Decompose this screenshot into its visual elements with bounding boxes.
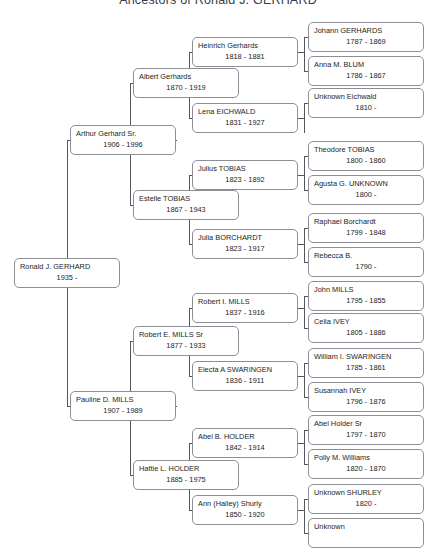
person-name: Arthur Gerhard Sr.	[76, 130, 170, 138]
tree-connector	[298, 510, 305, 511]
person-name: Theodore TOBIAS	[314, 146, 418, 154]
person-box-p5[interactable]: Estelle TOBIAS1867 - 1943	[133, 190, 239, 220]
tree-connector	[298, 308, 305, 309]
person-dates: 1820 -	[314, 500, 418, 508]
person-dates: 1818 - 1881	[198, 53, 292, 61]
person-dates: 1850 - 1920	[198, 511, 292, 519]
person-dates: 1867 - 1943	[139, 206, 233, 214]
person-name: Rebecca B.	[314, 252, 418, 260]
person-box-p23[interactable]: John MILLS1795 - 1855	[308, 281, 424, 311]
person-box-p11[interactable]: Julia BORCHARDT1823 - 1917	[192, 229, 298, 259]
person-name: William I. SWARINGEN	[314, 353, 418, 361]
person-dates: 1800 -	[314, 191, 418, 199]
tree-connector	[304, 430, 305, 464]
person-box-p27[interactable]: Abel Holder Sr1797 - 1870	[308, 415, 424, 445]
person-box-p10[interactable]: Julius TOBIAS1823 - 1892	[192, 160, 298, 190]
tree-connector	[304, 228, 305, 262]
person-box-p3[interactable]: Pauline D. MILLS1907 - 1989	[70, 391, 176, 421]
person-box-p21[interactable]: Raphael Borchardt1799 - 1848	[308, 213, 424, 243]
person-name: Unknown SHURLEY	[314, 489, 418, 497]
person-name: Ann (Hailey) Shurly	[198, 500, 292, 508]
person-box-p8[interactable]: Heinrich Gerhards1818 - 1881	[192, 37, 298, 67]
person-box-p26[interactable]: Susannah IVEY1796 - 1876	[308, 382, 424, 412]
tree-connector	[304, 363, 305, 397]
person-dates: 1805 - 1886	[314, 329, 418, 337]
person-name: Julius TOBIAS	[198, 165, 292, 173]
person-dates: 1787 - 1869	[314, 38, 418, 46]
person-name: Estelle TOBIAS	[139, 195, 233, 203]
tree-connector	[67, 273, 68, 406]
person-name: Abel Holder Sr	[314, 420, 418, 428]
person-dates: 1823 - 1892	[198, 176, 292, 184]
person-dates: 1870 - 1919	[139, 84, 233, 92]
person-dates: 1837 - 1916	[198, 309, 292, 317]
tree-connector	[304, 296, 305, 328]
person-name: Unknown	[314, 523, 418, 531]
person-dates: 1906 - 1996	[76, 141, 170, 149]
person-dates: 1820 - 1870	[314, 465, 418, 473]
person-box-p4[interactable]: Albert Gerhards1870 - 1919	[133, 68, 239, 98]
person-name: Lena EICHWALD	[198, 108, 292, 116]
person-name: Polly M. Williams	[314, 454, 418, 462]
ancestor-chart: Ancestors of Ronald J. GERHARD Ronald J.…	[0, 0, 436, 559]
person-name: John MILLS	[314, 286, 418, 294]
person-name: Hattie L. HOLDER	[139, 465, 233, 473]
person-name: Agusta G. UNKNOWN	[314, 180, 418, 188]
person-box-p17[interactable]: Anna M. BLUM1786 - 1867	[308, 56, 424, 86]
tree-connector	[298, 244, 305, 245]
person-box-p13[interactable]: Electa A SWARINGEN1836 - 1911	[192, 361, 298, 391]
person-dates: 1800 - 1860	[314, 157, 418, 165]
person-box-p30[interactable]: Unknown	[308, 518, 424, 548]
tree-connector	[298, 376, 305, 377]
person-dates: 1842 - 1914	[198, 444, 292, 452]
person-name: Abel B. HOLDER	[198, 433, 292, 441]
person-box-p22[interactable]: Rebecca B.1790 -	[308, 247, 424, 277]
person-box-p14[interactable]: Abel B. HOLDER1842 - 1914	[192, 428, 298, 458]
person-dates: 1790 -	[314, 263, 418, 271]
person-dates: 1823 - 1917	[198, 245, 292, 253]
person-name: Robert I. MILLS	[198, 298, 292, 306]
person-name: Celia IVEY	[314, 318, 418, 326]
person-box-p2[interactable]: Arthur Gerhard Sr.1906 - 1996	[70, 125, 176, 155]
person-name: Susannah IVEY	[314, 387, 418, 395]
person-dates: 1799 - 1848	[314, 229, 418, 237]
tree-connector	[304, 156, 305, 190]
tree-connector	[304, 499, 305, 533]
person-box-p9[interactable]: Lena EICHWALD1831 - 1927	[192, 103, 298, 133]
person-box-p28[interactable]: Polly M. Williams1820 - 1870	[308, 449, 424, 479]
person-box-p1[interactable]: Ronald J. GERHARD1935 -	[14, 258, 120, 288]
person-dates: 1935 -	[20, 274, 114, 282]
person-box-p7[interactable]: Hattie L. HOLDER1885 - 1975	[133, 460, 239, 490]
tree-connector	[304, 37, 305, 71]
person-dates: 1885 - 1975	[139, 476, 233, 484]
person-box-p6[interactable]: Robert E. MILLS Sr1877 - 1933	[133, 326, 239, 356]
tree-connector	[304, 103, 305, 133]
person-name: Johann GERHARDS	[314, 27, 418, 35]
person-box-p15[interactable]: Ann (Hailey) Shurly1850 - 1920	[192, 495, 298, 525]
person-dates: 1836 - 1911	[198, 377, 292, 385]
person-name: Electa A SWARINGEN	[198, 366, 292, 374]
person-box-p24[interactable]: Celia IVEY1805 - 1886	[308, 313, 424, 343]
person-box-p16[interactable]: Johann GERHARDS1787 - 1869	[308, 22, 424, 52]
person-dates: 1831 - 1927	[198, 119, 292, 127]
person-name: Raphael Borchardt	[314, 218, 418, 226]
person-dates: 1797 - 1870	[314, 431, 418, 439]
tree-connector	[298, 175, 305, 176]
person-box-p20[interactable]: Agusta G. UNKNOWN1800 -	[308, 175, 424, 205]
person-name: Heinrich Gerhards	[198, 42, 292, 50]
tree-connector	[298, 52, 305, 53]
person-box-p18[interactable]: Unknown Eichwald1810 -	[308, 88, 424, 118]
person-dates: 1795 - 1855	[314, 297, 418, 305]
person-dates: 1785 - 1861	[314, 364, 418, 372]
person-name: Robert E. MILLS Sr	[139, 331, 233, 339]
person-name: Anna M. BLUM	[314, 61, 418, 69]
person-box-p25[interactable]: William I. SWARINGEN1785 - 1861	[308, 348, 424, 378]
tree-connector	[298, 443, 305, 444]
person-box-p12[interactable]: Robert I. MILLS1837 - 1916	[192, 293, 298, 323]
person-name: Albert Gerhards	[139, 73, 233, 81]
person-box-p29[interactable]: Unknown SHURLEY1820 -	[308, 484, 424, 514]
tree-connector	[67, 140, 68, 273]
page-title: Ancestors of Ronald J. GERHARD	[0, 0, 436, 7]
person-box-p19[interactable]: Theodore TOBIAS1800 - 1860	[308, 141, 424, 171]
person-name: Unknown Eichwald	[314, 93, 418, 101]
